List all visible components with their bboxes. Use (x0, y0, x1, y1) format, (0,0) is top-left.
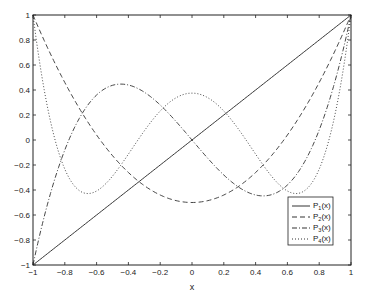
x-tick-label: 0.6 (282, 268, 294, 277)
legend-label-4: P4(x) (313, 234, 331, 244)
series-line-4 (33, 15, 351, 194)
chart-canvas: −1−0.8−0.6−0.4−0.200.20.40.60.81 −1−0.8−… (0, 0, 369, 297)
x-tick-label: −0.8 (57, 268, 73, 277)
x-tick-label: 0.8 (314, 268, 326, 277)
y-tick-label: 0.4 (19, 86, 31, 95)
y-tick-label: −1 (21, 261, 31, 270)
legend: P1(x)P2(x)P3(x)P4(x) (288, 197, 333, 245)
x-axis-label: x (190, 282, 195, 292)
legend-label-2: P2(x) (313, 212, 331, 222)
y-tick-label: 1 (26, 11, 31, 20)
x-tick-label: 1 (349, 268, 354, 277)
x-tick-label: −0.6 (89, 268, 105, 277)
y-tick-label: −0.4 (14, 186, 30, 195)
x-tick-label: 0.2 (218, 268, 230, 277)
x-tick-label: 0 (190, 268, 195, 277)
x-tick-label: −0.2 (152, 268, 168, 277)
x-tick-label: 0.4 (250, 268, 262, 277)
y-tick-label: 0.2 (19, 111, 31, 120)
series-line-2 (33, 15, 351, 203)
x-tick-label: −0.4 (121, 268, 137, 277)
legend-label-3: P3(x) (313, 223, 331, 233)
y-tick-label: −0.2 (14, 161, 30, 170)
y-tick-label: −0.6 (14, 211, 30, 220)
y-tick-label: 0.8 (19, 36, 31, 45)
legend-label-1: P1(x) (313, 201, 331, 211)
y-tick-label: −0.8 (14, 236, 30, 245)
y-tick-label: 0.6 (19, 61, 31, 70)
y-tick-label: 0 (26, 136, 31, 145)
